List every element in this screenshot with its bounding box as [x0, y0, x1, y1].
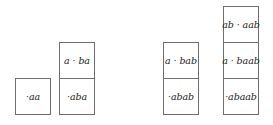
- column-2: a · ba ·aba: [59, 42, 95, 115]
- cell-a-baab: a · baab: [223, 43, 259, 79]
- cell-aba: ·aba: [59, 79, 95, 115]
- column-1: ·aa: [15, 78, 51, 115]
- cell-a-bab: a · bab: [163, 42, 199, 79]
- column-4: ab · aab a · baab ·abaab: [223, 6, 259, 115]
- cell-abab: ·abab: [163, 79, 199, 115]
- cell-abaab: ·abaab: [223, 79, 259, 115]
- column-3: a · bab ·abab: [163, 42, 199, 115]
- cell-ab-aab: ab · aab: [223, 6, 259, 43]
- cell-a-ba: a · ba: [59, 42, 95, 79]
- cell-aa: ·aa: [15, 78, 51, 115]
